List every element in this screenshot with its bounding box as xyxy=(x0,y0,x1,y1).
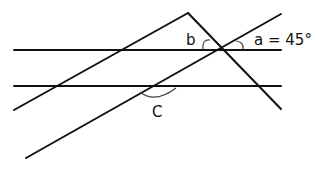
angle-c-label: C xyxy=(152,103,162,121)
angle-c-arc xyxy=(140,88,176,97)
angle-a-label: a = 45° xyxy=(254,31,312,49)
angle-a-arc xyxy=(236,41,243,49)
angle-b-arc xyxy=(203,40,210,49)
geometry-diagram: b a = 45° C xyxy=(0,0,316,170)
apex-descending-line xyxy=(188,13,281,109)
angle-b-label: b xyxy=(186,31,196,49)
